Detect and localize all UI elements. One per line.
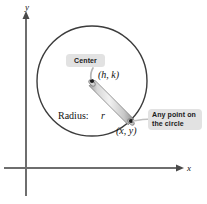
x-axis-arrowhead bbox=[176, 165, 184, 172]
y-axis-arrowhead bbox=[23, 11, 30, 19]
callout-any-point: Any point on the circle bbox=[133, 109, 202, 130]
callout-any-point-line2: the circle bbox=[152, 120, 184, 127]
circle-diagram-figure: x y (h, k) (x, y) Radius: r bbox=[0, 0, 207, 204]
y-axis-label: y bbox=[24, 2, 29, 12]
callout-center-leader bbox=[91, 68, 93, 79]
circle-point-label: (x, y) bbox=[116, 125, 137, 137]
center-point-label: (h, k) bbox=[98, 69, 120, 81]
callout-any-point-line1: Any point on bbox=[152, 111, 196, 119]
radius-label-symbol: r bbox=[101, 110, 105, 121]
x-axis-label: x bbox=[186, 163, 191, 173]
radius-label-group: Radius: r bbox=[58, 110, 105, 121]
radius-tube bbox=[88, 79, 136, 127]
diagram-canvas: x y (h, k) (x, y) Radius: r bbox=[0, 0, 207, 204]
axes-group bbox=[4, 11, 184, 196]
callout-center-label: Center bbox=[74, 57, 97, 64]
radius-label-prefix: Radius: bbox=[58, 110, 89, 121]
